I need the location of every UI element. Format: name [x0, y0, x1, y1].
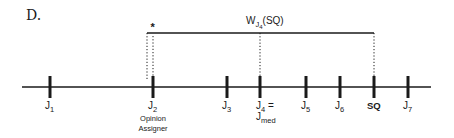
tick-label-j1: J1 [45, 100, 54, 114]
tick-label-j7: J7 [403, 100, 412, 114]
opinion-assigner-note: Assigner [138, 124, 168, 133]
asterisk-marker: * [151, 21, 156, 33]
tick-label-j3: J3 [222, 100, 231, 114]
opinion-assigner-note: Opinion [140, 114, 166, 123]
bracket: * WJ4(SQ) [147, 15, 374, 80]
panel-label: D. [26, 7, 41, 23]
bracket-label: WJ4(SQ) [246, 15, 284, 30]
tick-label-j5: J5 [301, 100, 310, 114]
tick-label-sq: SQ [367, 100, 381, 111]
axis-ticks: J1J2OpinionAssignerJ3J4 =JmedJ5J6SQJ7 [45, 76, 412, 133]
tick-label-j2: J2 [148, 100, 157, 114]
bracket-label-arg: (SQ) [263, 15, 284, 26]
spatial-model-diagram: D. * WJ4(SQ) J1J2OpinionAssignerJ3J4 =Jm… [0, 0, 454, 138]
tick-label-jmed: Jmed [256, 111, 276, 125]
tick-label-j6: J6 [335, 100, 344, 114]
